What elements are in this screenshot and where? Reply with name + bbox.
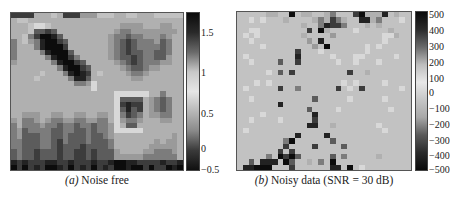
- colorbar-tick-label: −100: [429, 104, 450, 114]
- colorbar-tick-label: 0: [201, 144, 206, 154]
- colorbar-tick-label: 0: [429, 88, 434, 98]
- colorbar-tick-label: 0.5: [201, 109, 214, 119]
- heatmap-cell: [177, 165, 183, 170]
- heatmap-noisy-data: [236, 11, 412, 171]
- panel-label-b: (b): [255, 174, 268, 186]
- colorbar-tick-label: −0.5: [201, 165, 219, 175]
- colorbar-noise-free: [186, 12, 200, 171]
- colorbar-tick-label: 200: [429, 58, 444, 68]
- panel-caption-a: Noise free: [81, 174, 129, 186]
- heatmap-noise-free: [10, 12, 184, 171]
- colorbar-tick-label: 500: [429, 10, 444, 20]
- colorbar-tick-label: −400: [429, 151, 450, 161]
- colorbar-tick-label: −200: [429, 120, 450, 130]
- colorbar-tick-label: −500: [429, 165, 450, 175]
- colorbar-tick-label: 1.5: [201, 28, 214, 38]
- heatmap-cell: [405, 165, 411, 170]
- colorbar-tick-label: 400: [429, 26, 444, 36]
- caption-noise-free: (a) Noise free: [10, 174, 184, 186]
- colorbar-tick-label: 1: [201, 68, 206, 78]
- colorbar-tick-label: −300: [429, 136, 450, 146]
- colorbar-tick-label: 300: [429, 42, 444, 52]
- colorbar-tick-label: 100: [429, 74, 444, 84]
- colorbar-noisy-data: [415, 11, 428, 171]
- panel-label-a: (a): [65, 174, 78, 186]
- caption-noisy-data: (b) Noisy data (SNR = 30 dB): [236, 174, 412, 186]
- panel-caption-b: Noisy data (SNR = 30 dB): [271, 174, 393, 186]
